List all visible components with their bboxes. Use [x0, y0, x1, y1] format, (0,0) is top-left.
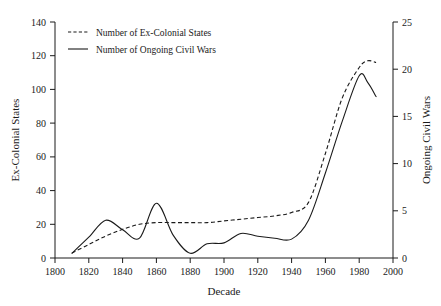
legend-label-ex-colonial-states: Number of Ex-Colonial States [96, 28, 212, 38]
x-tick-label: 1820 [79, 266, 99, 277]
left-y-tick-labels: 0 20 40 60 80 100 120 140 [31, 17, 46, 264]
x-axis-title: Decade [208, 285, 241, 297]
right-y-tick-label: 5 [402, 205, 407, 216]
right-y-tick-label: 15 [402, 111, 412, 122]
series-group [72, 61, 376, 254]
x-tick-label: 1980 [349, 266, 369, 277]
left-y-tick-label: 60 [36, 151, 46, 162]
right-y-tick-label: 25 [402, 17, 412, 28]
legend: Number of Ex-Colonial States Number of O… [68, 28, 216, 55]
right-y-axis: 0 5 10 15 20 25 Ongoing Civil Wars [393, 17, 432, 264]
x-tick-labels: 1800 1820 1840 1860 1880 1900 1920 1940 … [45, 266, 403, 277]
left-y-tick-label: 100 [31, 84, 46, 95]
right-y-tick-label: 0 [402, 253, 407, 264]
left-y-tick-label: 120 [31, 50, 46, 61]
left-y-tick-label: 0 [41, 253, 46, 264]
legend-label-ongoing-civil-wars: Number of Ongoing Civil Wars [96, 45, 216, 55]
x-tick-label: 1940 [282, 266, 302, 277]
x-tick-label: 1800 [45, 266, 65, 277]
x-tick-label: 2000 [383, 266, 403, 277]
left-y-tick-label: 20 [36, 219, 46, 230]
chart-svg: 0 20 40 60 80 100 120 140 Ex-Colonial St… [0, 0, 441, 306]
left-y-tick-label: 140 [31, 17, 46, 28]
x-axis: 1800 1820 1840 1860 1880 1900 1920 1940 … [45, 258, 403, 297]
x-tick-label: 1900 [214, 266, 234, 277]
x-tick-label: 1860 [146, 266, 166, 277]
right-y-tick-labels: 0 5 10 15 20 25 [402, 17, 412, 264]
right-y-tick-label: 20 [402, 64, 412, 75]
chart-figure: 0 20 40 60 80 100 120 140 Ex-Colonial St… [0, 0, 441, 306]
x-tick-label: 1880 [180, 266, 200, 277]
left-y-tick-label: 40 [36, 185, 46, 196]
x-tick-label: 1840 [113, 266, 133, 277]
left-y-tick-label: 80 [36, 118, 46, 129]
x-ticks [55, 258, 393, 263]
right-y-ticks [393, 22, 398, 258]
right-y-tick-label: 10 [402, 158, 412, 169]
left-y-axis: 0 20 40 60 80 100 120 140 Ex-Colonial St… [9, 17, 55, 264]
left-y-ticks [50, 22, 55, 258]
left-y-axis-title: Ex-Colonial States [9, 99, 21, 182]
x-tick-label: 1960 [315, 266, 335, 277]
series-ongoing-civil-wars-line [72, 74, 376, 254]
right-y-axis-title: Ongoing Civil Wars [420, 96, 432, 184]
x-tick-label: 1920 [248, 266, 268, 277]
